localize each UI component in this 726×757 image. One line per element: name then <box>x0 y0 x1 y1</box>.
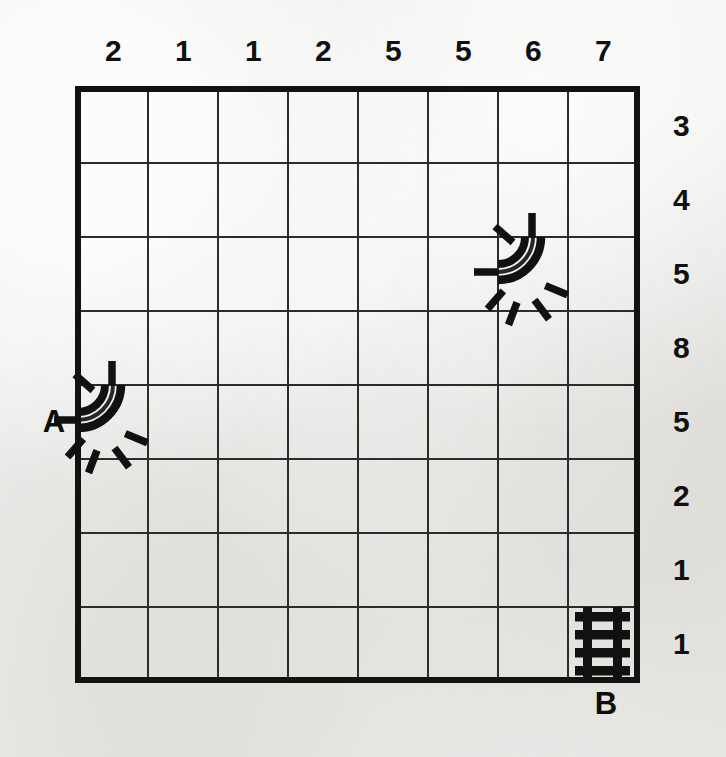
puzzle-board <box>0 0 726 757</box>
track-piece-straight-row8-col8-endpoint-b <box>575 607 630 680</box>
train-tracks-puzzle: 2 1 1 2 5 5 6 7 3 4 5 8 5 2 1 1 A B <box>0 0 726 757</box>
track-piece-curve-row3-col7 <box>474 213 567 325</box>
track-piece-curve-row5-col1-endpoint-a <box>54 361 147 473</box>
grid-lines <box>78 89 637 680</box>
